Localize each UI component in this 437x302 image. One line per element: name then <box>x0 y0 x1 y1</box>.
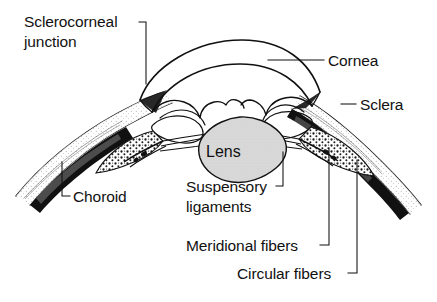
leader-sclerocorneal-junction <box>139 22 146 84</box>
label-sclerocorneal-junction-line1: Sclerocorneal <box>24 13 117 30</box>
label-suspensory-ligaments-line1: Suspensory <box>186 178 267 195</box>
label-suspensory-ligaments-line2: ligaments <box>186 198 252 215</box>
leader-circular-fibers <box>348 160 357 273</box>
label-sclera: Sclera <box>360 96 404 113</box>
label-circular-fibers: Circular fibers <box>237 265 331 282</box>
label-choroid: Choroid <box>73 188 127 205</box>
label-meridional-fibers: Meridional fibers <box>186 237 298 254</box>
label-lens: Lens <box>206 143 241 160</box>
eye-diagram-svg: Sclerocorneal junction Cornea Sclera Cho… <box>0 0 437 302</box>
label-cornea: Cornea <box>328 52 379 69</box>
eye-anatomy-figure: Sclerocorneal junction Cornea Sclera Cho… <box>0 0 437 302</box>
label-sclerocorneal-junction-line2: junction <box>23 33 77 50</box>
